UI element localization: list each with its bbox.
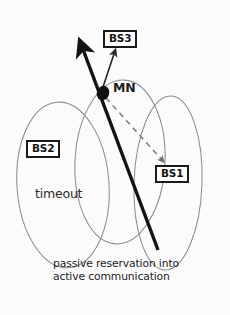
figure-caption: passive reservation into active communic… [53, 258, 179, 283]
mobile-node-label: MN [113, 80, 135, 95]
caption-line-1: passive reservation into [53, 258, 179, 271]
cell-ellipse-bs1 [131, 95, 205, 271]
base-station-3-label[interactable]: BS3 [103, 30, 137, 48]
cell-ellipse-bs2 [11, 99, 114, 271]
base-station-2-label[interactable]: BS2 [26, 140, 60, 158]
base-station-1-label[interactable]: BS1 [155, 165, 189, 183]
mn-trajectory-arrow [81, 44, 158, 250]
cell-ellipse-bs3 [71, 78, 169, 246]
figure-canvas: BS3 BS2 BS1 MN timeout passive reservati… [0, 0, 230, 315]
caption-line-2: active communication [53, 271, 179, 284]
timeout-label: timeout [35, 186, 82, 201]
